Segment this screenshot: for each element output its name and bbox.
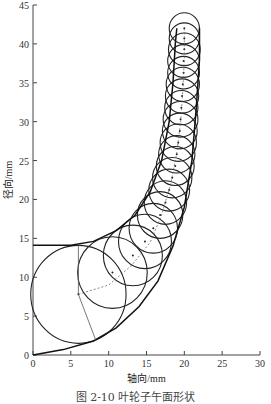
y-tick-label: 40 bbox=[19, 39, 29, 50]
circle-center-dot bbox=[159, 214, 161, 216]
x-axis-label: 轴向/mm bbox=[127, 372, 166, 384]
x-tick-label: 20 bbox=[179, 358, 189, 369]
series-shroud bbox=[33, 28, 177, 245]
y-tick-label: 5 bbox=[24, 311, 29, 322]
circle-center-dot bbox=[144, 240, 146, 242]
circle-center-dot bbox=[179, 130, 181, 132]
x-tick-label: 5 bbox=[68, 358, 73, 369]
x-tick-label: 30 bbox=[255, 358, 265, 369]
circle-center-dot bbox=[152, 227, 154, 229]
y-tick-label: 0 bbox=[24, 350, 29, 361]
y-tick-label: 35 bbox=[19, 78, 29, 89]
circle-center-dot bbox=[132, 254, 134, 256]
y-tick-label: 10 bbox=[19, 272, 29, 283]
x-tick-label: 25 bbox=[217, 358, 227, 369]
x-tick-label: 15 bbox=[142, 358, 152, 369]
figure-caption: 图 2-10 叶轮子午面形状 bbox=[0, 388, 271, 404]
y-tick-label: 45 bbox=[19, 0, 29, 11]
y-tick-label: 20 bbox=[19, 194, 29, 205]
x-tick-label: 0 bbox=[31, 358, 36, 369]
circle-center-dot bbox=[111, 272, 113, 274]
x-tick-label: 10 bbox=[104, 358, 114, 369]
series-hub bbox=[33, 28, 200, 355]
y-tick-label: 25 bbox=[19, 156, 29, 167]
circle-center-dot bbox=[180, 118, 182, 120]
y-tick-label: 15 bbox=[19, 233, 29, 244]
y-axis-label: 径向/mm bbox=[2, 161, 14, 200]
radius-line bbox=[78, 294, 95, 340]
circle-center-dot bbox=[168, 189, 170, 191]
y-tick-label: 30 bbox=[19, 117, 29, 128]
